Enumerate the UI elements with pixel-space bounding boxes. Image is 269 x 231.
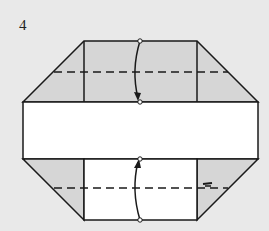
bottom-panel: [84, 159, 197, 220]
middle-band: [23, 102, 258, 159]
origami-diagram: [0, 0, 269, 231]
bottom-left-flap: [23, 159, 84, 220]
bottom-right-flap: [197, 159, 258, 220]
